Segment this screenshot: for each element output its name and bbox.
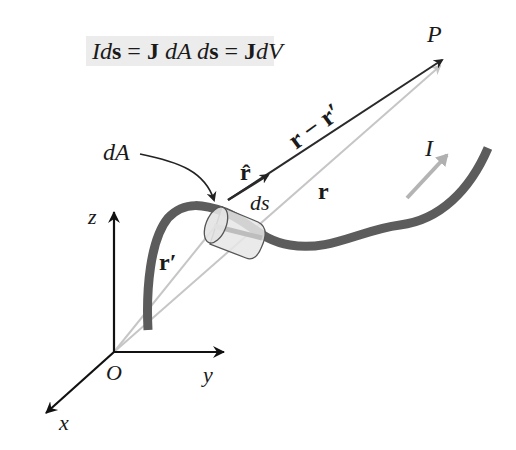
current-arrow <box>407 155 447 198</box>
x-axis <box>46 352 114 413</box>
label-origin: O <box>106 360 122 385</box>
label-current-I: I <box>424 135 434 161</box>
wire <box>148 148 488 330</box>
label-r: r <box>318 178 329 204</box>
dA-pointer <box>140 154 214 200</box>
label-r-prime: r′ <box>159 249 176 275</box>
label-dA: dA <box>103 139 130 165</box>
label-r-minus-rprime: r − r′ <box>282 97 346 154</box>
label-z-axis: z <box>87 204 97 229</box>
label-x-axis: x <box>58 410 69 435</box>
label-ds: ds <box>250 190 270 215</box>
label-point-P: P <box>426 21 442 47</box>
r-vector <box>114 66 440 352</box>
label-y-axis: y <box>201 362 213 387</box>
diagram-canvas: P r − r′ r̂ r r′ ds dA I z y x O <box>0 0 516 450</box>
label-r-hat: r̂ <box>240 159 251 185</box>
